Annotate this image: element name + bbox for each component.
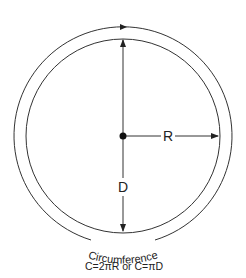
circle-diagram: R D Circumference C=2πR or C=πD (0, 0, 246, 278)
radius-label: R (163, 128, 173, 144)
circumference-direction-arrow-icon (120, 24, 127, 30)
diameter-label: D (118, 179, 128, 195)
formula-label: C=2πR or C=πD (85, 260, 164, 272)
diagram-svg: R D Circumference C=2πR or C=πD (0, 0, 246, 278)
center-point (120, 133, 127, 140)
